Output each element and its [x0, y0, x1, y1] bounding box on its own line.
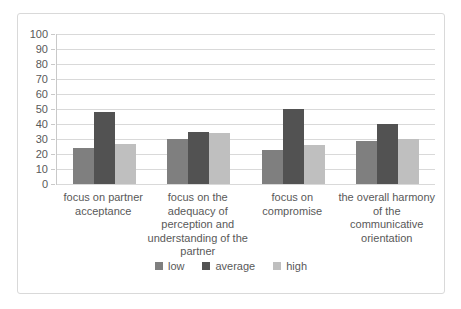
y-axis-tick: [51, 109, 55, 110]
y-axis-tick: [51, 154, 55, 155]
bar-high-category-4: [398, 139, 419, 184]
x-axis-category-label-line: focus on: [237, 191, 347, 205]
legend-label: low: [168, 260, 185, 272]
legend-marker-icon: [202, 262, 210, 270]
y-axis-tick: [51, 64, 55, 65]
x-axis-category-label-line: orientation: [332, 232, 442, 246]
x-axis-category-label: the overall harmonyof thecommunicativeor…: [332, 191, 442, 245]
screenshot-root: focus on partneracceptancefocus on thead…: [0, 0, 461, 309]
bar-average-category-4: [377, 124, 398, 184]
y-axis-tick-label: 60: [22, 89, 48, 100]
y-axis-tick-label: 50: [22, 104, 48, 115]
legend-item-low: low: [155, 260, 185, 272]
x-axis-category-label-line: communicative: [332, 218, 442, 232]
y-axis-tick: [51, 124, 55, 125]
y-axis-tick-label: 100: [22, 29, 48, 40]
gridline: [57, 49, 435, 50]
bar-average-category-1: [94, 112, 115, 184]
bar-average-category-2: [188, 132, 209, 185]
y-axis-tick: [51, 184, 55, 185]
y-axis-tick-label: 90: [22, 44, 48, 55]
legend-marker-icon: [273, 262, 281, 270]
bar-average-category-3: [283, 109, 304, 184]
legend-marker-icon: [155, 262, 163, 270]
gridline: [57, 34, 435, 35]
gridline: [57, 109, 435, 110]
y-axis-tick: [51, 94, 55, 95]
legend: lowaveragehigh: [18, 260, 444, 272]
y-axis-tick-label: 0: [22, 179, 48, 190]
gridline: [57, 64, 435, 65]
x-axis-category-label-line: focus on partner: [48, 191, 158, 205]
x-axis-category-label-line: adequacy of: [143, 205, 253, 219]
legend-item-high: high: [273, 260, 307, 272]
x-axis-category-label-line: the overall harmony: [332, 191, 442, 205]
gridline: [57, 94, 435, 95]
x-axis-category-label-line: acceptance: [48, 205, 158, 219]
y-axis-tick-label: 40: [22, 119, 48, 130]
x-axis-category-label-line: of the: [332, 205, 442, 219]
y-axis-tick-label: 70: [22, 74, 48, 85]
y-axis-tick-label: 80: [22, 59, 48, 70]
x-axis-category-label-line: partner: [143, 245, 253, 259]
legend-item-average: average: [202, 260, 255, 272]
y-axis-tick-label: 10: [22, 164, 48, 175]
x-axis-category-label-line: understanding of the: [143, 232, 253, 246]
y-axis-tick: [51, 139, 55, 140]
y-axis-tick: [51, 49, 55, 50]
y-axis-tick-label: 20: [22, 149, 48, 160]
y-axis-tick: [51, 34, 55, 35]
bar-low-category-2: [167, 139, 188, 184]
chart-frame: focus on partneracceptancefocus on thead…: [17, 13, 445, 294]
x-axis-category-label: focus oncompromise: [237, 191, 347, 218]
y-axis-tick: [51, 169, 55, 170]
x-axis-category-label: focus on theadequacy ofperception andund…: [143, 191, 253, 259]
legend-label: high: [286, 260, 307, 272]
x-axis-category-label: focus on partneracceptance: [48, 191, 158, 218]
bar-low-category-3: [262, 150, 283, 185]
y-axis-tick: [51, 79, 55, 80]
bar-high-category-3: [304, 145, 325, 184]
bar-low-category-4: [356, 141, 377, 185]
x-axis-category-label-line: perception and: [143, 218, 253, 232]
y-axis-tick-label: 30: [22, 134, 48, 145]
bar-high-category-1: [115, 144, 136, 185]
gridline: [57, 79, 435, 80]
x-axis-category-label-line: compromise: [237, 205, 347, 219]
bar-low-category-1: [73, 148, 94, 184]
legend-label: average: [215, 260, 255, 272]
bar-high-category-2: [209, 133, 230, 184]
x-axis-category-label-line: focus on the: [143, 191, 253, 205]
plot-area: [56, 34, 435, 185]
